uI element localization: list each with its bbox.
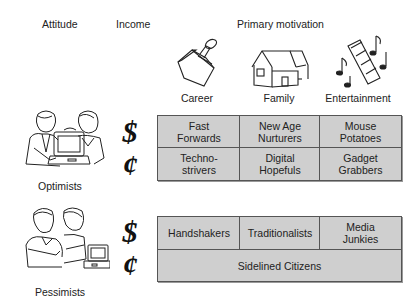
briefcase-stamp-icon: [170, 38, 232, 88]
grid-divider: [158, 249, 401, 250]
income-low-cent-icon: ¢: [115, 250, 145, 280]
segment-mouse-potatoes: Mouse Potatoes: [320, 116, 401, 147]
header-attitude: Attitude: [42, 18, 78, 30]
house-icon: [250, 47, 310, 89]
segment-gadget-grabbers: Gadget Grabbers: [320, 148, 401, 180]
grid-divider: [319, 217, 320, 249]
segment-digital-hopefuls: Digital Hopefuls: [240, 148, 320, 180]
motivation-label-entertainment: Entertainment: [318, 92, 398, 104]
optimists-segment-grid: Fast Forwards New Age Nurturers Mouse Po…: [157, 115, 402, 181]
grid-divider: [239, 116, 240, 180]
pessimists-segment-grid: Handshakers Traditionalists Media Junkie…: [157, 216, 402, 282]
segment-traditionalists: Traditionalists: [240, 217, 320, 249]
income-high-dollar-icon: $: [115, 217, 145, 247]
motivation-label-career: Career: [157, 92, 237, 104]
segment-handshakers: Handshakers: [158, 217, 240, 249]
attitude-label-pessimists: Pessimists: [20, 286, 100, 298]
segment-sidelined-citizens: Sidelined Citizens: [158, 250, 401, 281]
film-music-icon: [336, 32, 392, 88]
segment-new-age-nurturers: New Age Nurturers: [240, 116, 320, 147]
pessimists-people-computer-icon: [20, 205, 110, 275]
segment-media-junkies: Media Junkies: [320, 217, 401, 249]
header-income: Income: [116, 18, 150, 30]
income-low-cent-icon: ¢: [115, 150, 145, 180]
header-primary-motivation: Primary motivation: [237, 18, 324, 30]
grid-divider: [319, 116, 320, 180]
grid-divider: [158, 147, 401, 148]
optimists-people-computer-icon: [20, 108, 110, 172]
segment-techno-strivers: Techno- strivers: [158, 148, 240, 180]
segment-fast-forwards: Fast Forwards: [158, 116, 240, 147]
motivation-label-family: Family: [239, 92, 319, 104]
grid-divider: [239, 217, 240, 249]
attitude-label-optimists: Optimists: [20, 180, 100, 192]
income-high-dollar-icon: $: [115, 117, 145, 147]
